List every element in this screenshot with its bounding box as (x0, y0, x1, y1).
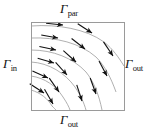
streamline (31, 38, 116, 92)
gamma-symbol-in: Γ (3, 56, 10, 71)
boundary-label-out-bottom: Γout (60, 113, 78, 126)
flow-arrow (74, 84, 84, 102)
flow-arrow (54, 61, 69, 77)
streamline (31, 62, 86, 110)
boundary-label-in: Γin (3, 57, 17, 70)
boundary-label-par: Γpar (60, 2, 78, 15)
subscript-out-right: out (133, 63, 143, 73)
arrow-group (28, 21, 115, 106)
arrow-head (78, 94, 85, 101)
flow-arrow (101, 40, 115, 57)
subscript-par: par (68, 8, 78, 18)
flow-arrow (28, 82, 45, 96)
flow-arrow (97, 60, 110, 77)
arrow-head (48, 59, 55, 66)
streamline (31, 76, 70, 110)
subscript-in: in (11, 63, 17, 73)
gamma-symbol-par: Γ (60, 1, 67, 16)
arrow-head (38, 88, 46, 96)
gamma-symbol-out-bottom: Γ (60, 112, 67, 127)
streamline-group (31, 26, 124, 110)
flow-arrow (76, 22, 93, 36)
arrow-head (107, 50, 115, 58)
gamma-symbol-out-right: Γ (125, 56, 132, 71)
subscript-out-bottom: out (68, 119, 78, 129)
boundary-label-out-right: Γout (125, 57, 143, 70)
flow-arrow (37, 56, 55, 66)
boundary-flow-figure: Γpar Γin Γout Γout (0, 0, 156, 133)
